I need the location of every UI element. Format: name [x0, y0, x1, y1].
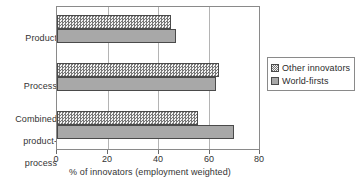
tick-label-60: 60 — [204, 154, 214, 164]
category-label-combined-line1: Combined — [15, 114, 57, 125]
legend-swatch-world-firsts-icon — [271, 77, 279, 85]
plot-area — [56, 6, 260, 150]
tick-label-80: 80 — [254, 154, 264, 164]
x-axis-title: % of innovators (employment weighted) — [0, 167, 300, 177]
bar-chart: Product Process Combined product- proces… — [0, 0, 364, 181]
category-label-process-text: Process — [24, 81, 57, 92]
category-label-product: Product — [25, 22, 57, 55]
bar-combined-world-firsts — [57, 125, 234, 139]
bar-product-world-firsts — [57, 29, 176, 43]
bar-process-world-firsts — [57, 77, 216, 91]
bar-combined-other-innovators — [57, 111, 198, 125]
legend-label-world-firsts: World-firsts — [282, 76, 329, 86]
bar-product-other-innovators — [57, 15, 171, 29]
bar-process-other-innovators — [57, 63, 219, 77]
tick-label-40: 40 — [153, 154, 163, 164]
category-label-combined-line2: product- — [15, 136, 57, 147]
tick-label-0: 0 — [53, 154, 58, 164]
legend-item-world-firsts: World-firsts — [271, 74, 350, 87]
category-label-process: Process — [24, 70, 57, 103]
legend-item-other-innovators: Other innovators — [271, 61, 350, 74]
category-label-product-text: Product — [25, 33, 57, 44]
legend-label-other-innovators: Other innovators — [282, 63, 350, 73]
legend-swatch-other-innovators-icon — [271, 64, 279, 72]
tick-label-20: 20 — [102, 154, 112, 164]
legend: Other innovators World-firsts — [267, 57, 355, 91]
